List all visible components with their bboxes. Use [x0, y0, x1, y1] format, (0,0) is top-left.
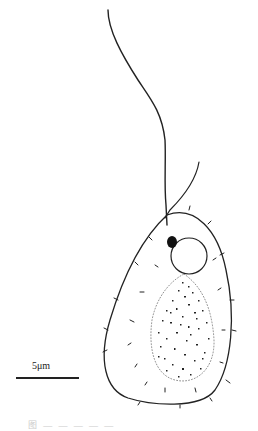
figure-caption: 图 — — — — — — [28, 418, 115, 431]
short-flagellum — [165, 162, 199, 218]
granular-body — [151, 274, 214, 381]
scale-bar — [16, 377, 79, 379]
surface-spines — [103, 206, 236, 408]
granules — [158, 282, 210, 378]
scale-bar-label: 5μm — [32, 360, 50, 371]
long-flagellum — [108, 10, 167, 225]
internal-marks — [128, 258, 225, 392]
stigma — [167, 236, 177, 248]
